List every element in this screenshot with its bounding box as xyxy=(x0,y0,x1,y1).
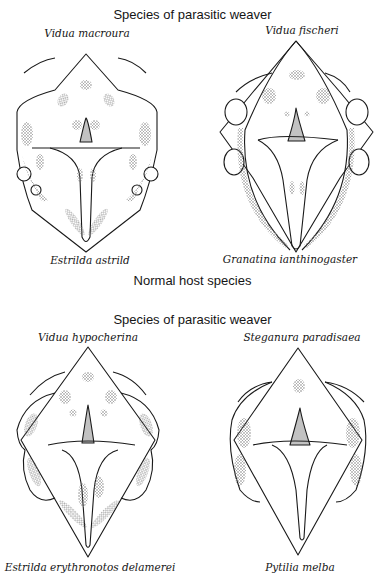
gape-fischeri xyxy=(220,41,373,252)
gape-diagrams xyxy=(0,0,385,580)
gape-macroura xyxy=(17,54,158,252)
gape-hypocherina xyxy=(17,347,159,557)
gape-paradisaea xyxy=(230,348,366,555)
